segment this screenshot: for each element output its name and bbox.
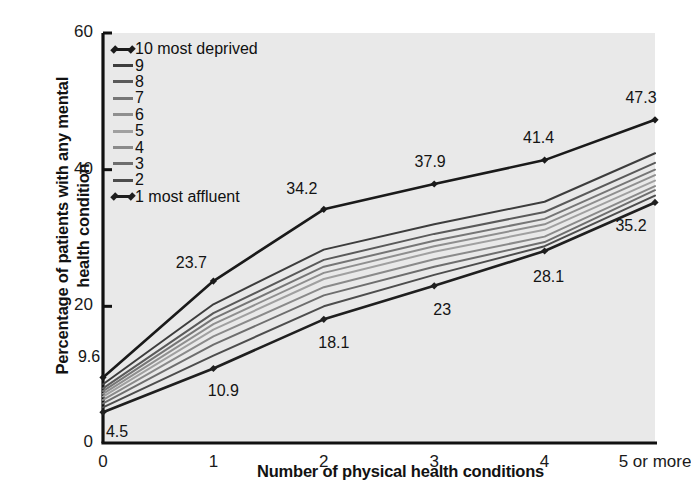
x-tick-label: 3: [429, 452, 438, 472]
chart-figure: Percentage of patients with any mental h…: [0, 0, 691, 498]
data-point-label: 34.2: [286, 180, 317, 198]
data-point-label: 37.9: [415, 153, 446, 171]
legend-item-10-most-deprived[interactable]: 10 most deprived: [113, 41, 258, 57]
legend-line-swatch-icon: [113, 179, 133, 182]
legend-line-swatch-icon: [113, 162, 133, 165]
data-point-label: 9.6: [78, 348, 100, 366]
data-point-label: 18.1: [318, 334, 349, 352]
legend-item-label: 9: [135, 58, 144, 74]
legend-item-label: 4: [135, 140, 144, 156]
data-point-label: 47.3: [625, 89, 656, 107]
legend-line-swatch-icon: [113, 64, 133, 67]
x-tick-label: 4: [540, 452, 549, 472]
data-point-label: 35.2: [615, 217, 646, 235]
y-tick-label: 40: [47, 159, 93, 179]
legend-item-2[interactable]: 2: [113, 172, 258, 188]
legend-line-swatch-icon: [113, 113, 133, 116]
data-point-label: 23.7: [176, 254, 207, 272]
legend-item-label: 3: [135, 156, 144, 172]
legend-item-label: 5: [135, 123, 144, 139]
legend-item-label: 7: [135, 90, 144, 106]
legend-item-label: 10 most deprived: [135, 41, 258, 57]
chart-legend: 10 most deprived987654321 most affluent: [113, 41, 258, 205]
x-tick-label: 5 or more: [619, 452, 691, 472]
legend-item-label: 1 most affluent: [135, 189, 240, 205]
data-point-label: 10.9: [208, 382, 239, 400]
data-point-label: 4.5: [106, 423, 128, 441]
x-tick-label: 1: [209, 452, 218, 472]
legend-line-swatch-icon: [113, 130, 133, 133]
data-point-label: 28.1: [533, 268, 564, 286]
legend-line-swatch-icon: [113, 146, 133, 149]
legend-line-swatch-icon: [113, 195, 133, 198]
data-point-label: 23: [433, 301, 451, 319]
y-tick-label: 20: [47, 295, 93, 315]
legend-item-8[interactable]: 8: [113, 74, 258, 90]
x-tick-label: 2: [319, 452, 328, 472]
legend-item-4[interactable]: 4: [113, 139, 258, 155]
legend-item-5[interactable]: 5: [113, 123, 258, 139]
y-tick-label: 0: [47, 432, 93, 452]
chart-canvas: [0, 0, 691, 498]
legend-line-swatch-icon: [113, 80, 133, 83]
y-tick-label: 60: [47, 22, 93, 42]
legend-item-label: 8: [135, 74, 144, 90]
legend-item-6[interactable]: 6: [113, 107, 258, 123]
legend-line-swatch-icon: [113, 97, 133, 100]
legend-item-3[interactable]: 3: [113, 156, 258, 172]
y-axis-label: Percentage of patients with any mental h…: [52, 61, 93, 391]
x-tick-label: 0: [98, 452, 107, 472]
legend-item-7[interactable]: 7: [113, 90, 258, 106]
legend-line-swatch-icon: [113, 48, 133, 51]
legend-item-1-most-affluent[interactable]: 1 most affluent: [113, 189, 258, 205]
legend-item-label: 6: [135, 107, 144, 123]
legend-item-label: 2: [135, 172, 144, 188]
legend-item-9[interactable]: 9: [113, 57, 258, 73]
data-point-label: 41.4: [523, 129, 554, 147]
